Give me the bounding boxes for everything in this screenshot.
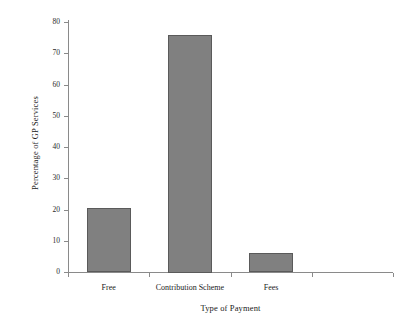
y-tick-label-text: 0 xyxy=(38,268,60,276)
y-tick-mark xyxy=(64,85,68,86)
y-tick-mark xyxy=(64,147,68,148)
y-tick-mark xyxy=(64,210,68,211)
y-tick-label-text: 70 xyxy=(38,49,60,57)
y-tick-mark xyxy=(64,22,68,23)
x-tick-mark xyxy=(393,273,394,277)
bar-chart: Percentage of GP Services 01020304050607… xyxy=(0,0,407,329)
y-tick-label: 10 xyxy=(38,237,60,245)
bar-fees xyxy=(249,253,293,272)
y-tick-label-text: 10 xyxy=(38,237,60,245)
y-tick-label: 40 xyxy=(38,143,60,151)
x-tick-label: Fees xyxy=(211,283,331,293)
y-tick-mark xyxy=(64,178,68,179)
y-tick-label: 70 xyxy=(38,49,60,57)
y-tick-label-text: 50 xyxy=(38,112,60,120)
y-tick-label: 0 xyxy=(38,268,60,276)
y-tick-label: 20 xyxy=(38,206,60,214)
x-tick-mark xyxy=(231,273,232,277)
y-tick-label-text: 30 xyxy=(38,174,60,182)
y-tick-label-text: 20 xyxy=(38,206,60,214)
y-tick-label-text: 60 xyxy=(38,81,60,89)
x-tick-mark xyxy=(312,273,313,277)
x-tick-mark xyxy=(149,273,150,277)
y-tick-mark xyxy=(64,53,68,54)
y-tick-mark xyxy=(64,241,68,242)
y-tick-label: 60 xyxy=(38,81,60,89)
y-tick-mark xyxy=(64,116,68,117)
y-tick-label-text: 80 xyxy=(38,18,60,26)
x-axis-label: Type of Payment xyxy=(68,303,393,313)
bar-contribution-scheme xyxy=(168,35,212,273)
y-tick-label-text: 40 xyxy=(38,143,60,151)
y-axis-line xyxy=(68,20,69,273)
y-tick-label: 80 xyxy=(38,18,60,26)
y-tick-label: 30 xyxy=(38,174,60,182)
x-tick-mark xyxy=(68,273,69,277)
y-tick-label: 50 xyxy=(38,112,60,120)
bar-free xyxy=(87,208,131,272)
